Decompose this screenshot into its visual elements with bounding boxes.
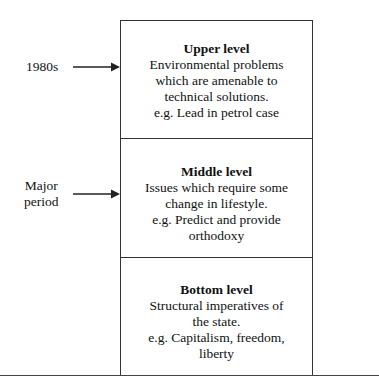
annotation-1980s-label: 1980s bbox=[26, 59, 58, 75]
upper-level-line-1: Environmental problems bbox=[121, 57, 312, 73]
upper-level-line-4: e.g. Lead in petrol case bbox=[121, 105, 312, 121]
bottom-level-title: Bottom level bbox=[121, 282, 312, 298]
upper-level-title: Upper level bbox=[121, 41, 312, 57]
arrow-right-icon bbox=[73, 61, 121, 73]
annotation-major-period-line-1: Major bbox=[24, 178, 59, 194]
middle-level-line-4: orthodoxy bbox=[121, 228, 312, 244]
annotation-1980s-text: 1980s bbox=[26, 59, 58, 74]
bottom-level-line-2: the state. bbox=[121, 314, 312, 330]
annotation-major-period-label: Major period bbox=[24, 178, 59, 210]
base-line bbox=[0, 375, 379, 376]
middle-level-line-1: Issues which require some bbox=[121, 180, 312, 196]
upper-level-line-2: which are amenable to bbox=[121, 73, 312, 89]
middle-level-title: Middle level bbox=[121, 164, 312, 180]
bottom-level-line-4: liberty bbox=[121, 346, 312, 362]
middle-level-line-3: e.g. Predict and provide bbox=[121, 212, 312, 228]
bottom-level-line-3: e.g. Capitalism, freedom, bbox=[121, 330, 312, 346]
middle-level-line-2: change in lifestyle. bbox=[121, 196, 312, 212]
middle-level-box: Middle level Issues which require some c… bbox=[120, 138, 313, 258]
bottom-level-line-1: Structural imperatives of bbox=[121, 298, 312, 314]
bottom-level-box: Bottom level Structural imperatives of t… bbox=[120, 257, 313, 376]
upper-level-box: Upper level Environmental problems which… bbox=[120, 20, 313, 139]
annotation-major-period-line-2: period bbox=[24, 194, 59, 210]
upper-level-line-3: technical solutions. bbox=[121, 89, 312, 105]
arrow-right-icon bbox=[73, 188, 121, 200]
